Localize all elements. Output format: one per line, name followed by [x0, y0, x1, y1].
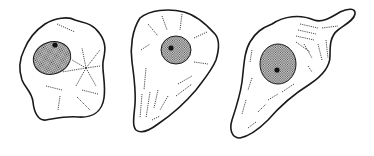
cell-3-nucleus	[260, 44, 296, 84]
cell-2-nucleus	[161, 36, 191, 64]
cell-1-nucleolus	[52, 42, 57, 47]
cell-3	[231, 9, 355, 138]
cell-illustration	[0, 0, 374, 156]
cell-3-nucleolus	[274, 67, 279, 72]
cell-1	[20, 18, 105, 120]
cell-2-nucleolus	[168, 45, 173, 50]
cell-2-membrane	[131, 10, 218, 132]
cell-2	[131, 10, 218, 132]
cells-drawing	[0, 0, 374, 156]
